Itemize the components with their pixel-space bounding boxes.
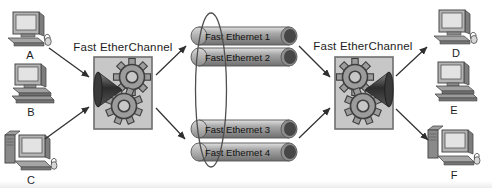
host-label: E [450, 105, 457, 116]
desktop-computer-on-base-icon [7, 63, 55, 105]
host-label: C [27, 175, 35, 186]
gears-funnel-switch-icon [334, 56, 394, 130]
link-label: Fast Ethernet 3 [205, 124, 270, 135]
channel-label-left: Fast EtherChannel [61, 41, 185, 53]
switch-right [334, 56, 394, 130]
host-label: B [27, 107, 34, 118]
host-c: C [3, 129, 59, 186]
gears-funnel-switch-icon [93, 56, 153, 130]
link-pipe-4: Fast Ethernet 4 [190, 142, 298, 162]
arrow-line [396, 109, 428, 140]
arrow-line [299, 108, 330, 138]
desktop-computer-on-base-icon [430, 61, 478, 103]
host-d: D [432, 8, 480, 59]
link-pipe-2: Fast Ethernet 2 [190, 47, 298, 67]
link-label: Fast Ethernet 1 [205, 31, 270, 42]
switch-left [93, 56, 153, 130]
arrow-line [156, 108, 185, 139]
tower-workstation-icon [3, 129, 59, 173]
host-label: A [26, 50, 33, 61]
tower-workstation-icon [426, 124, 482, 168]
channel-label-right: Fast EtherChannel [301, 40, 425, 52]
host-f: F [426, 124, 482, 181]
link-pipe-3: Fast Ethernet 3 [190, 119, 298, 139]
host-a: A [6, 10, 54, 61]
desktop-computer-with-mouse-icon [432, 8, 480, 46]
host-b: B [7, 63, 55, 118]
link-label: Fast Ethernet 4 [205, 147, 270, 158]
host-label: D [452, 48, 460, 59]
link-pipe-1: Fast Ethernet 1 [190, 26, 298, 46]
link-label: Fast Ethernet 2 [205, 52, 270, 63]
host-e: E [430, 61, 478, 116]
desktop-computer-with-mouse-icon [6, 10, 54, 48]
host-label: F [451, 170, 458, 181]
fast-etherchannel-diagram: A B C [0, 0, 492, 188]
